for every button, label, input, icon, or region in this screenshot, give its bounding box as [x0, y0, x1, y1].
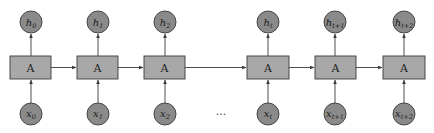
- time-step-t-plus-2: A ht+2 xt+2: [383, 11, 425, 125]
- cell-label: A: [93, 62, 103, 75]
- cell-label: A: [399, 62, 409, 75]
- cell-label: A: [331, 62, 341, 75]
- time-step-0: A h0 x0: [10, 11, 51, 125]
- time-step-1: A h1 x1: [77, 11, 118, 125]
- cell-label: A: [263, 62, 273, 75]
- time-step-2: A h2 x2: [144, 11, 185, 125]
- time-step-t-plus-1: A ht+1 xt+1: [315, 11, 356, 125]
- cell-label: A: [160, 62, 170, 75]
- ellipsis: ...: [216, 105, 227, 118]
- cell-label: A: [26, 62, 36, 75]
- time-step-t: A ht xt: [247, 11, 289, 125]
- rnn-unrolled-diagram: A h0 x0 A h1 x1 A h2 x2 ... A ht xt: [0, 0, 434, 133]
